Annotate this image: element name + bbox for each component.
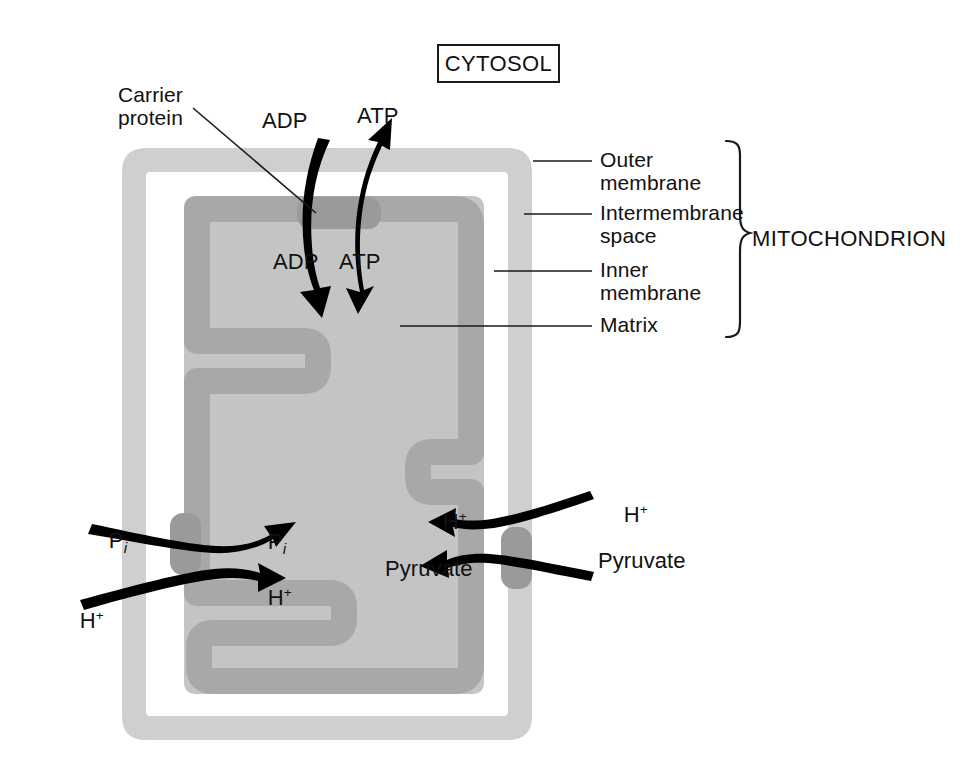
label-h-matrix-right-charge: +	[459, 508, 467, 523]
label-h-cytosol-left-symbol: H	[80, 608, 96, 633]
label-outer-membrane-line2: membrane	[600, 171, 701, 195]
label-h-cytosol-left-charge: +	[96, 607, 104, 622]
label-pi-matrix-symbol: P	[268, 529, 283, 554]
label-h-cytosol-right: H+	[599, 478, 648, 552]
label-h-matrix-left-charge: +	[284, 584, 292, 599]
label-h-matrix-right: H+	[418, 485, 467, 559]
label-outer-membrane-line1: Outer	[600, 148, 653, 172]
mitochondrion-label: MITOCHONDRION	[752, 226, 946, 252]
carrier-protein-callout-line1: Carrier	[118, 83, 183, 107]
label-pi-cytosol-symbol: P	[109, 528, 124, 553]
label-h-cytosol-right-charge: +	[640, 501, 648, 516]
cytosol-label: CYTOSOL	[445, 51, 553, 77]
label-matrix: Matrix	[600, 313, 658, 337]
carrier-protein-callout-line2: protein	[118, 106, 183, 130]
label-atp-matrix: ATP	[339, 250, 380, 275]
cytosol-label-box: CYTOSOL	[437, 44, 560, 83]
label-intermembrane-space-line1: Intermembrane	[600, 201, 744, 225]
label-pyruvate-matrix: Pyruvate	[385, 557, 473, 582]
mitochondrion-brace	[726, 141, 750, 337]
label-h-cytosol-left: H+	[55, 584, 104, 658]
label-pi-cytosol-subscript: i	[124, 539, 128, 556]
label-h-matrix-left-symbol: H	[268, 585, 284, 610]
label-h-matrix-left: H+	[243, 561, 292, 635]
label-h-matrix-right-symbol: H	[443, 509, 459, 534]
label-h-cytosol-right-symbol: H	[624, 502, 640, 527]
label-intermembrane-space-line2: space	[600, 224, 657, 248]
label-adp-cytosol: ADP	[262, 109, 308, 134]
label-inner-membrane-line1: Inner	[600, 258, 648, 282]
diagram-canvas: CYTOSOL Carrier protein Outer membrane I…	[0, 0, 962, 765]
label-pi-matrix-subscript: i	[283, 540, 287, 557]
label-pyruvate-cytosol: Pyruvate	[598, 549, 686, 574]
label-pi-cytosol: Pi	[84, 504, 127, 578]
label-inner-membrane-line2: membrane	[600, 281, 701, 305]
label-adp-matrix: ADP	[273, 250, 319, 275]
label-atp-cytosol: ATP	[357, 104, 398, 129]
